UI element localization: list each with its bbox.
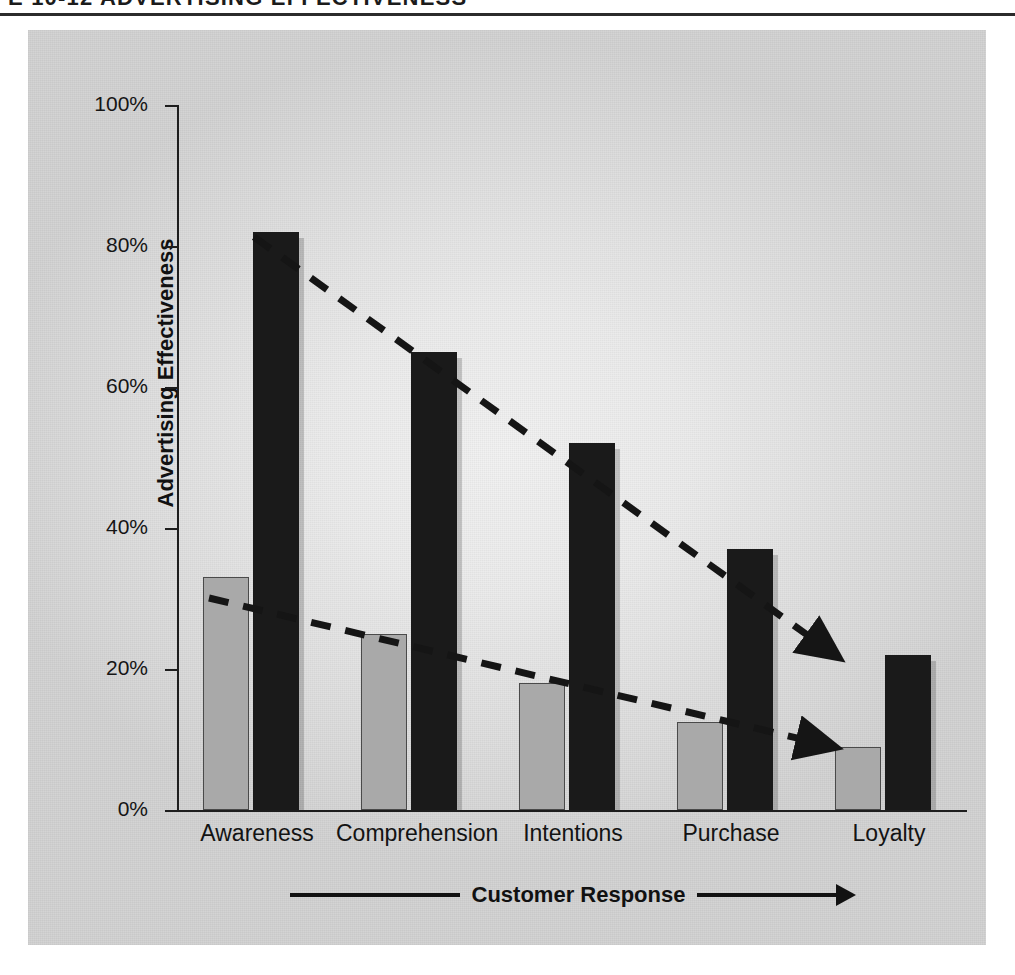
running-head-text: E 10-12 ADVERTISING EFFECTIVENESS: [8, 0, 467, 11]
x-category-label: Loyalty: [810, 820, 968, 847]
x-category-label: Awareness: [178, 820, 336, 847]
y-axis-tick: [165, 810, 178, 812]
bar-black-awareness: [253, 232, 299, 810]
bar-gray-purchase: [677, 722, 723, 810]
x-axis-line: [177, 810, 967, 812]
figure-panel: 100% 80% 60% 40% 20% 0% Advertising Effe…: [28, 30, 986, 945]
y-axis-tick: [165, 246, 178, 248]
right-arrow-icon: [836, 884, 856, 906]
bar-gray-awareness: [203, 577, 249, 810]
running-head: E 10-12 ADVERTISING EFFECTIVENESS: [0, 0, 1015, 14]
y-tick-label: 0%: [118, 797, 148, 821]
y-tick-label: 100%: [94, 92, 148, 116]
bar-gray-loyalty: [835, 747, 881, 810]
bar-black-comprehension: [411, 352, 457, 810]
x-axis-title: Customer Response: [460, 882, 698, 908]
x-title-rule-right: [697, 893, 837, 897]
y-tick-label: 40%: [106, 515, 148, 539]
bar-gray-intentions: [519, 683, 565, 810]
plot-area: [178, 105, 968, 810]
y-axis-tick: [165, 387, 178, 389]
x-category-label: Comprehension: [336, 820, 494, 847]
header-rule: [0, 13, 1015, 16]
y-axis-tick-labels: 100% 80% 60% 40% 20% 0%: [28, 105, 156, 815]
x-category-label: Purchase: [652, 820, 810, 847]
x-title-rule-left: [290, 893, 460, 897]
y-axis-tick: [165, 669, 178, 671]
y-tick-label: 60%: [106, 374, 148, 398]
y-axis-tick: [165, 528, 178, 530]
bar-black-loyalty: [885, 655, 931, 810]
y-axis-tick: [165, 105, 178, 107]
bar-black-intentions: [569, 443, 615, 810]
bar-gray-comprehension: [361, 634, 407, 810]
x-axis-category-labels: AwarenessComprehensionIntentionsPurchase…: [178, 820, 968, 854]
x-axis-title-group: Customer Response: [178, 878, 968, 912]
x-category-label: Intentions: [494, 820, 652, 847]
y-axis-title: Advertising Effectiveness: [153, 213, 179, 533]
y-axis-line: [177, 105, 179, 812]
y-tick-label: 20%: [106, 656, 148, 680]
bar-black-purchase: [727, 549, 773, 810]
y-tick-label: 80%: [106, 233, 148, 257]
